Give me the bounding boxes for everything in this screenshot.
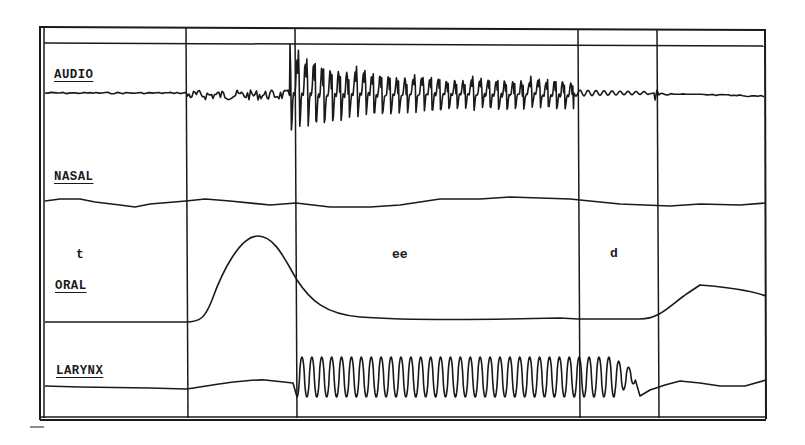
channel-label-oral: ORAL [55,278,87,293]
channel-label-larynx: LARYNX [56,363,103,378]
segment-label-t: t [76,247,84,262]
segment-label-d: d [610,246,618,261]
audio-trace [45,45,764,130]
nasal-trace [45,197,765,207]
segment-label-ee: ee [392,247,408,262]
trace-plot-area [0,0,805,445]
channel-label-audio: AUDIO [54,67,93,82]
larynx-trace [45,357,766,397]
speech-trace-chart: AUDIO NASAL ORAL LARYNX t ee d [0,0,805,445]
channel-label-nasal: NASAL [54,169,93,184]
